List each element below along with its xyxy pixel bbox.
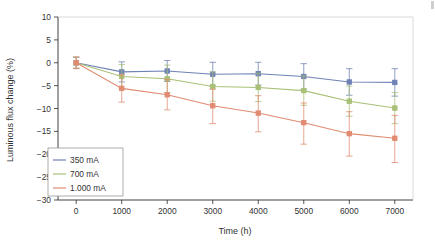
- data-point: [393, 106, 397, 110]
- data-point: [120, 86, 124, 90]
- y-tick-label-3: −5: [41, 81, 51, 91]
- data-point: [211, 84, 215, 88]
- y-tick-label-8: −30: [37, 195, 52, 205]
- x-tick-label-0: 0: [74, 206, 79, 216]
- corner-artifact: [431, 1, 434, 9]
- x-tick-label-6: 6000: [340, 206, 359, 216]
- legend: 350 mA700 mA1.000 mA: [48, 148, 123, 196]
- data-point: [393, 136, 397, 140]
- y-tick-label-4: −10: [37, 104, 52, 114]
- chart-background: [0, 0, 435, 241]
- x-tick-label-1: 1000: [112, 206, 131, 216]
- y-axis-title: Luminous flux change (%): [5, 58, 15, 162]
- data-point: [211, 104, 215, 108]
- data-point: [302, 88, 306, 92]
- figure-root: 01000200030004000500060007000 1050−5−10−…: [0, 0, 435, 241]
- x-tick-label-3: 3000: [203, 206, 222, 216]
- data-point: [74, 61, 78, 65]
- y-tick-label-5: −15: [37, 126, 52, 136]
- data-point: [347, 80, 351, 84]
- data-point: [302, 120, 306, 124]
- data-point: [347, 131, 351, 135]
- data-point: [393, 80, 397, 84]
- legend-label-0: 350 mA: [70, 155, 99, 165]
- y-tick-label-2: 0: [46, 58, 51, 68]
- legend-label-1: 700 mA: [70, 169, 99, 179]
- x-axis-title: Time (h): [218, 226, 251, 236]
- data-point: [165, 93, 169, 97]
- y-tick-label-1: 5: [46, 35, 51, 45]
- x-tick-label-5: 5000: [294, 206, 313, 216]
- data-point: [347, 99, 351, 103]
- x-tick-label-4: 4000: [249, 206, 268, 216]
- x-tick-label-7: 7000: [385, 206, 404, 216]
- data-point: [256, 85, 260, 89]
- x-tick-label-2: 2000: [158, 206, 177, 216]
- y-tick-label-0: 10: [42, 12, 52, 22]
- data-point: [256, 111, 260, 115]
- legend-label-2: 1.000 mA: [70, 183, 106, 193]
- luminous-flux-chart: 01000200030004000500060007000 1050−5−10−…: [0, 0, 435, 241]
